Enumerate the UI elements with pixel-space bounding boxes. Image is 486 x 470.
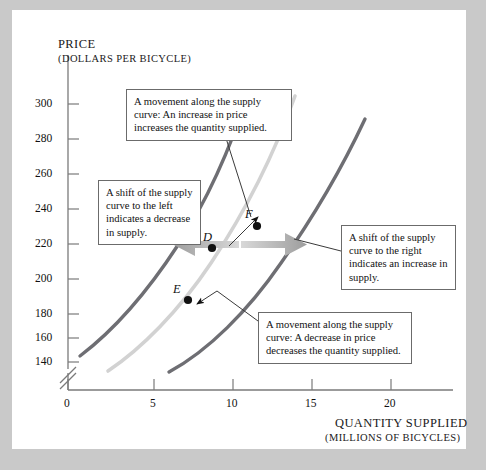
x-tick-label: 0 [64,397,70,409]
figure-root: PRICE (DOLLARS PER BICYCLE) QUANTITY SUP… [0,0,486,470]
callout-movement-down: A movement along the supply curve: A dec… [258,312,412,364]
y-tick-label: 180 [35,307,52,319]
point-label-E: E [173,282,181,297]
callout-shift-right: A shift of the supply curve to the right… [341,225,456,290]
x-axis-subtitle: (MILLIONS OF BICYCLES) [325,432,460,443]
x-tick-label: 20 [384,397,396,409]
y-axis-ticks [68,104,79,362]
x-tick-label: 5 [150,397,156,409]
y-tick-label: 280 [35,132,52,144]
y-axis-subtitle: (DOLLARS PER BICYCLE) [58,53,191,64]
y-tick-label: 220 [35,237,52,249]
y-tick-label: 140 [35,355,52,367]
figure-panel: PRICE (DOLLARS PER BICYCLE) QUANTITY SUP… [13,11,465,448]
y-tick-label: 300 [35,97,52,109]
x-tick-label: 10 [226,397,238,409]
y-tick-label: 240 [35,202,52,214]
point-E-marker [184,296,192,304]
point-label-D: D [203,230,212,245]
point-F-marker [253,222,261,230]
callout-shift-left: A shift of the supply curve to the left … [98,180,201,245]
y-tick-label: 160 [35,331,52,343]
point-label-F: F [245,207,253,222]
point-D-marker [208,244,216,252]
y-tick-label: 200 [35,272,52,284]
y-axis-title: PRICE [58,37,95,52]
callout-movement-up: A movement along the supply curve: An in… [126,89,292,141]
x-axis-title: QUANTITY SUPPLIED [335,416,467,431]
x-tick-label: 15 [305,397,317,409]
y-tick-label: 260 [35,167,52,179]
x-axis-ticks [68,379,391,390]
